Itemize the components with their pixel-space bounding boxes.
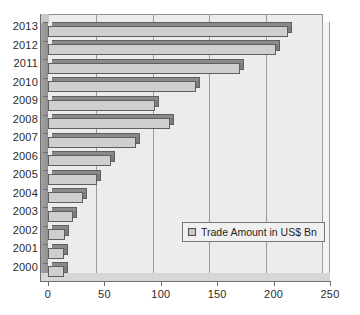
bar-front-face xyxy=(48,118,170,129)
bar-front-face xyxy=(48,63,240,74)
y-tick xyxy=(43,115,48,116)
bar-front-face xyxy=(48,211,73,222)
y-tick-label: 2005 xyxy=(2,168,38,180)
x-tick xyxy=(330,281,331,286)
bar xyxy=(48,137,136,148)
bar xyxy=(48,26,288,37)
bar-front-face xyxy=(48,155,111,166)
y-tick xyxy=(43,170,48,171)
bar xyxy=(48,155,111,166)
y-tick-label: 2010 xyxy=(2,76,38,88)
y-tick-label: 2008 xyxy=(2,113,38,125)
plot-left-wall xyxy=(40,14,48,281)
square-swatch-icon xyxy=(188,228,196,236)
bar xyxy=(48,229,65,240)
bar-front-face xyxy=(48,174,97,185)
y-tick-label: 2007 xyxy=(2,131,38,143)
y-tick xyxy=(43,244,48,245)
bar-front-face xyxy=(48,81,196,92)
y-tick-label: 2004 xyxy=(2,187,38,199)
bar-front-face xyxy=(48,137,136,148)
bar-front-face xyxy=(48,44,276,55)
bar-front-face xyxy=(48,100,155,111)
bar xyxy=(48,248,64,259)
bar xyxy=(48,81,196,92)
y-tick-label: 2001 xyxy=(2,242,38,254)
y-tick-label: 2009 xyxy=(2,94,38,106)
y-tick xyxy=(43,96,48,97)
x-tick-label: 250 xyxy=(321,288,340,300)
bar xyxy=(48,266,64,277)
y-tick xyxy=(43,226,48,227)
bar-front-face xyxy=(48,248,64,259)
x-tick-label: 50 xyxy=(98,288,111,300)
y-tick xyxy=(43,152,48,153)
x-tick-label: 0 xyxy=(45,288,51,300)
bar xyxy=(48,211,73,222)
y-axis-line xyxy=(40,14,41,282)
y-tick-label: 2003 xyxy=(2,205,38,217)
y-tick-label: 2012 xyxy=(2,39,38,51)
y-tick-label: 2006 xyxy=(2,150,38,162)
bar xyxy=(48,44,276,55)
bar xyxy=(48,174,97,185)
bar-chart-figure: Trade Amount in US$ Bn 05010015020025020… xyxy=(0,0,360,315)
chart-legend: Trade Amount in US$ Bn xyxy=(182,222,325,242)
y-tick xyxy=(43,59,48,60)
y-tick xyxy=(43,41,48,42)
bar xyxy=(48,192,83,203)
y-tick-label: 2013 xyxy=(2,20,38,32)
bar xyxy=(48,118,170,129)
y-tick xyxy=(43,189,48,190)
y-tick-label: 2011 xyxy=(2,57,38,69)
x-tick-label: 200 xyxy=(264,288,283,300)
bar-front-face xyxy=(48,266,64,277)
y-tick xyxy=(43,207,48,208)
bar-front-face xyxy=(48,192,83,203)
y-tick xyxy=(43,78,48,79)
y-tick xyxy=(43,133,48,134)
y-tick xyxy=(43,263,48,264)
legend-entry-label: Trade Amount in US$ Bn xyxy=(201,226,317,238)
bar-front-face xyxy=(48,26,288,37)
y-tick-label: 2000 xyxy=(2,261,38,273)
x-axis-line xyxy=(40,281,330,282)
y-tick-label: 2002 xyxy=(2,224,38,236)
y-tick xyxy=(43,22,48,23)
bar xyxy=(48,63,240,74)
x-tick-label: 150 xyxy=(208,288,227,300)
bar xyxy=(48,100,155,111)
bar-front-face xyxy=(48,229,65,240)
x-tick-label: 100 xyxy=(151,288,170,300)
